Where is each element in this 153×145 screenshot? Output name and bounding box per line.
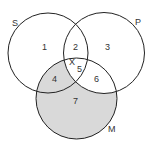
region-1: 1	[42, 42, 47, 52]
region-6: 6	[94, 74, 99, 84]
label-s: S	[12, 18, 18, 28]
region-7: 7	[73, 96, 78, 106]
venn-diagram: S P M 1 2 3 X 5 4 6 7	[0, 0, 153, 145]
region-4: 4	[52, 74, 57, 84]
label-m: M	[108, 124, 116, 134]
label-p: P	[135, 17, 141, 27]
region-3: 3	[105, 42, 110, 52]
region-5: 5	[77, 64, 82, 74]
region-2: 2	[73, 42, 78, 52]
region-x: X	[69, 57, 75, 67]
